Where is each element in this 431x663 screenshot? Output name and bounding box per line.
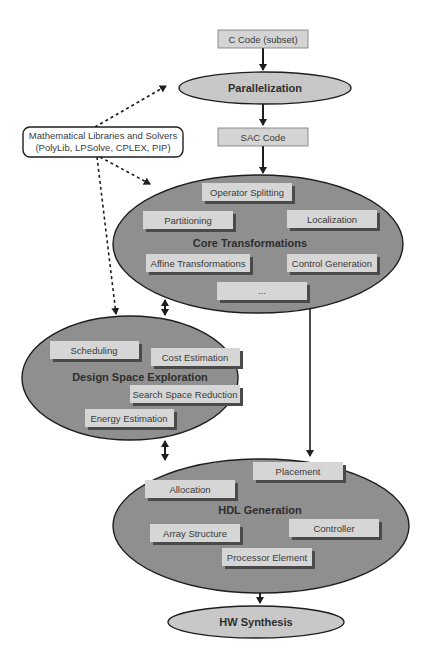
dse-item-cost-estimation: Cost Estimation [151, 348, 243, 369]
dse-item-label: Energy Estimation [90, 413, 167, 424]
core-item-label: Operator Splitting [210, 187, 284, 198]
dse-item-scheduling: Scheduling [50, 341, 142, 362]
core-item-label: Control Generation [292, 258, 372, 269]
hdl-item-label: Controller [313, 523, 354, 534]
core-transformations-label: Core Transformations [193, 237, 307, 249]
dse-item-search-space-reduction: Search Space Reduction [130, 385, 243, 406]
parallelization-label: Parallelization [228, 82, 302, 94]
dse-item-label: Cost Estimation [162, 352, 229, 363]
hdl-item-processor-element: Processor Element [222, 548, 315, 569]
parallelization-node: Parallelization [179, 72, 351, 104]
flow-diagram: C Code (subset) Parallelization SAC Code… [0, 0, 431, 663]
dse-item-label: Search Space Reduction [132, 389, 237, 400]
core-item-control-generation: Control Generation [287, 254, 380, 275]
dashed-arrow-to-dse [97, 157, 116, 314]
core-item-label: Partitioning [164, 215, 212, 226]
hdl-generation-node: Placement Allocation HDL Generation Cont… [113, 459, 409, 593]
c-code-label: C Code (subset) [228, 34, 297, 45]
core-item-label: Localization [307, 214, 357, 225]
dse-item-label: Scheduling [70, 345, 117, 356]
hdl-item-label: Array Structure [163, 528, 227, 539]
sac-code-label: SAC Code [241, 132, 286, 143]
sac-code-box: SAC Code [218, 128, 308, 146]
core-transformations-node: Operator Splitting Partitioning Localiza… [113, 175, 403, 313]
core-item-operator-splitting: Operator Splitting [202, 183, 295, 204]
dashed-arrow-to-parallelization [95, 86, 166, 127]
hdl-item-allocation: Allocation [145, 480, 238, 501]
hw-synthesis-label: HW Synthesis [219, 616, 292, 628]
core-item-ellipsis: ... [217, 282, 310, 303]
core-item-partitioning: Partitioning [143, 211, 236, 232]
libraries-line1: Mathematical Libraries and Solvers [29, 130, 178, 141]
hw-synthesis-node: HW Synthesis [168, 606, 344, 638]
hdl-item-label: Placement [276, 466, 321, 477]
libraries-box: Mathematical Libraries and Solvers (Poly… [23, 127, 183, 157]
core-item-label: Affine Transformations [151, 258, 246, 269]
c-code-box: C Code (subset) [218, 30, 308, 48]
core-item-localization: Localization [287, 210, 380, 231]
dse-item-energy-estimation: Energy Estimation [85, 409, 177, 430]
hdl-item-controller: Controller [289, 519, 382, 540]
hdl-generation-label: HDL Generation [218, 504, 302, 516]
libraries-line2: (PolyLib, LPSolve, CPLEX, PIP) [35, 142, 170, 153]
dse-label: Design Space Exploration [72, 371, 208, 383]
hdl-item-array-structure: Array Structure [150, 524, 243, 545]
hdl-item-label: Processor Element [227, 552, 308, 563]
dashed-arrow-to-core [100, 157, 150, 184]
hdl-item-placement: Placement [253, 462, 346, 483]
core-item-affine-transformations: Affine Transformations [146, 254, 253, 275]
core-item-label: ... [258, 285, 266, 296]
design-space-exploration-node: Scheduling Cost Estimation Design Space … [22, 316, 243, 440]
hdl-item-label: Allocation [169, 484, 210, 495]
